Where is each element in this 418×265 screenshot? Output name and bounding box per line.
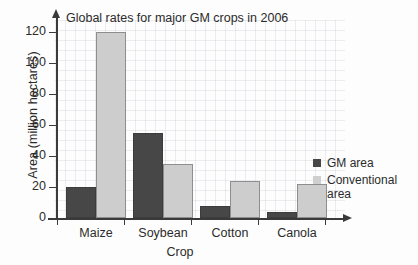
x-tick-label-canola: Canola	[255, 226, 339, 240]
legend-label: Conventional area	[327, 173, 418, 201]
x-tick-mark	[325, 219, 326, 225]
legend-swatch-icon	[313, 159, 321, 167]
legend-swatch-icon	[313, 176, 321, 184]
bar-maize-conventional	[96, 32, 126, 218]
y-tick-label: 40	[4, 148, 46, 162]
x-axis-line	[48, 218, 344, 220]
bar-soybean-gm	[133, 133, 163, 218]
x-tick-mark	[124, 219, 125, 225]
x-tick-mark	[258, 219, 259, 225]
bar-maize-gm	[66, 187, 96, 218]
y-tick-mark	[49, 187, 56, 188]
y-tick: 120	[0, 32, 60, 33]
bar-canola-gm	[267, 212, 297, 218]
y-tick: 100	[0, 63, 60, 64]
x-axis-title: Crop	[0, 245, 360, 259]
y-tick: 0	[0, 218, 60, 219]
bars-layer	[58, 16, 343, 218]
legend-item-conventional-area: Conventional area	[313, 173, 418, 201]
y-tick-label: 120	[4, 24, 46, 38]
y-tick: 80	[0, 94, 60, 95]
y-tick-mark	[49, 94, 56, 95]
x-axis-arrow-icon	[343, 214, 352, 222]
y-tick: 60	[0, 125, 60, 126]
chart-legend: GM areaConventional area	[313, 156, 418, 204]
y-tick-label: 100	[4, 55, 46, 69]
y-tick-mark	[49, 218, 56, 219]
y-tick-mark	[49, 156, 56, 157]
bar-cotton-gm	[200, 206, 230, 218]
bar-cotton-conventional	[230, 181, 260, 218]
legend-label: GM area	[327, 156, 374, 170]
y-tick-mark	[49, 63, 56, 64]
y-tick-label: 80	[4, 86, 46, 100]
y-tick-mark	[49, 125, 56, 126]
x-tick-mark	[57, 219, 58, 225]
y-tick-label: 60	[4, 117, 46, 131]
y-axis-title: Area (million hectares)	[26, 25, 40, 205]
y-tick-mark	[49, 32, 56, 33]
y-tick: 40	[0, 156, 60, 157]
y-tick-label: 20	[4, 179, 46, 193]
legend-item-gm-area: GM area	[313, 156, 418, 170]
y-tick: 20	[0, 187, 60, 188]
chart-figure: Global rates for major GM crops in 2006 …	[0, 0, 418, 265]
y-tick-label: 0	[4, 210, 46, 224]
x-tick-mark	[191, 219, 192, 225]
bar-soybean-conventional	[163, 164, 193, 218]
